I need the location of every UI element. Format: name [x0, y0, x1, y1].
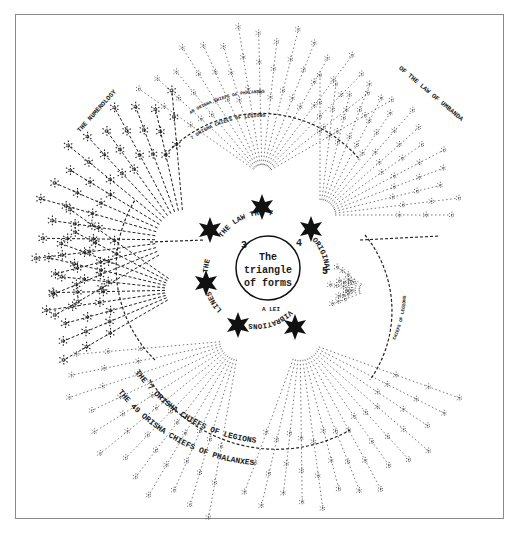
- title-law-of-umbanda: OF THE LAW OF UMBANDA: [397, 65, 464, 123]
- title-the-numerology: THE NUMEROLOGY: [76, 89, 118, 134]
- ring-label-a-lei: A LEI: [262, 306, 280, 313]
- center-line-2: triangle: [244, 265, 292, 276]
- star-left-icon: [195, 270, 217, 296]
- inner-ring-right: ORIGINAL: [310, 236, 331, 273]
- center-line-1: The: [259, 252, 277, 263]
- central-circle: The triangle of forms 3 4 5 A LEI: [236, 236, 328, 313]
- label-upper-legions: 7 ORISHA CHIEFS OF LEGIONS: [189, 113, 265, 141]
- umbanda-numerology-diagram: The triangle of forms 3 4 5 A LEI THE LA…: [0, 0, 520, 538]
- label-chiefs-of-legions: THE 7 ORISHA CHIEFS OF LEGIONS: [133, 368, 257, 445]
- star-upper-left-icon: [199, 217, 221, 243]
- label-chiefs-of-phalanxes: THE 49 ORISHA CHIEFS OF PHALANXES: [116, 388, 255, 468]
- center-line-3: of forms: [244, 278, 292, 289]
- star-upper-right-icon: [300, 216, 322, 242]
- label-right-legions: CHIEFS OF LEGIONS: [391, 295, 406, 340]
- label-upper-phalanxes: 49 ORISHA CHIEFS OF PHALANXES: [188, 89, 265, 115]
- ring-number-3: 3: [241, 240, 247, 251]
- inner-ring-top: THE LAW THE 7: [217, 209, 274, 239]
- ring-number-4: 4: [296, 238, 302, 249]
